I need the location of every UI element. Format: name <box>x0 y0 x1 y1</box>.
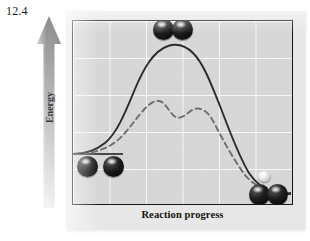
atom-dark <box>77 156 98 177</box>
plot-area <box>72 20 293 205</box>
energy-axis: Energy <box>36 14 62 210</box>
products-molecule <box>241 171 293 205</box>
atom-light <box>258 171 271 182</box>
atom-dark <box>172 20 193 40</box>
y-axis-label: Energy <box>44 79 55 137</box>
atom-dark <box>267 184 288 205</box>
atom-dark <box>153 20 174 40</box>
x-axis-label: Reaction progress <box>72 209 293 220</box>
atom-dark <box>103 156 124 177</box>
chart-panel: Reaction progress <box>66 11 305 230</box>
transition-state-molecule <box>153 20 198 43</box>
figure-number: 12.4 <box>6 4 28 19</box>
reactants-molecule <box>77 156 129 180</box>
